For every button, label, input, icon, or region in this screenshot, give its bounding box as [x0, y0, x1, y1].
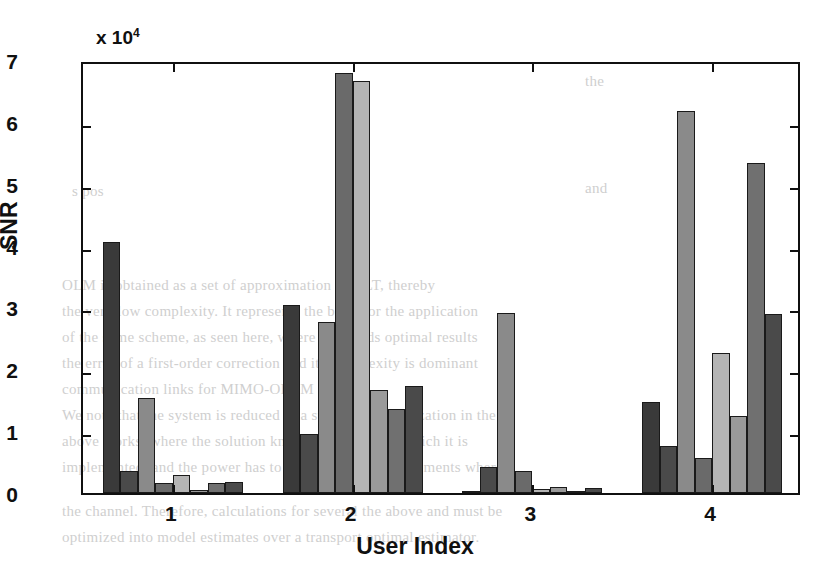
x-tick-label: 2 — [345, 502, 357, 526]
y-tick-mark — [82, 373, 91, 375]
y-tick-label: 4 — [0, 236, 18, 260]
bar — [353, 81, 371, 493]
y-tick-label: 6 — [0, 112, 18, 136]
bar — [190, 490, 208, 493]
bar — [208, 483, 226, 493]
bar — [300, 434, 318, 493]
bar — [585, 488, 603, 493]
x-axis-title: User Index — [0, 533, 830, 560]
x-tick-label: 1 — [165, 502, 177, 526]
y-tick-label: 7 — [0, 50, 18, 74]
bar — [388, 409, 406, 493]
bar — [765, 314, 783, 493]
bar — [712, 353, 730, 493]
y-axis-exponent-power: 4 — [133, 26, 140, 40]
bar — [660, 446, 678, 493]
bar — [462, 491, 480, 493]
x-tick-mark — [173, 485, 175, 494]
bar — [642, 402, 660, 493]
bar — [677, 111, 695, 493]
x-tick-label: 3 — [525, 502, 537, 526]
bar — [103, 242, 121, 493]
bar — [155, 483, 173, 493]
y-tick-mark — [790, 126, 799, 128]
x-tick-label: 4 — [704, 502, 716, 526]
bar — [120, 471, 138, 493]
bar-chart-figure: x 104 SNR User Index 01234567 1234 — [0, 0, 830, 574]
y-tick-label: 5 — [0, 174, 18, 198]
bar — [318, 322, 336, 493]
bar-series-container — [83, 64, 798, 493]
y-tick-mark — [82, 435, 91, 437]
bar — [335, 73, 353, 493]
y-tick-label: 0 — [0, 483, 18, 507]
y-tick-mark — [82, 250, 91, 252]
x-tick-mark — [712, 63, 714, 72]
y-tick-mark — [790, 188, 799, 190]
bar — [225, 482, 243, 493]
bar — [747, 163, 765, 493]
x-tick-mark — [173, 63, 175, 72]
x-tick-mark — [353, 63, 355, 72]
bar — [405, 386, 423, 493]
bar — [173, 475, 191, 493]
y-tick-mark — [790, 311, 799, 313]
bar — [695, 458, 713, 493]
bar — [550, 487, 568, 493]
bar — [532, 489, 550, 493]
bar — [138, 398, 156, 493]
y-tick-mark — [790, 435, 799, 437]
plot-area — [81, 62, 800, 495]
y-tick-label: 1 — [0, 421, 18, 445]
bar — [567, 491, 585, 493]
bar — [497, 313, 515, 493]
bar — [283, 305, 301, 493]
y-tick-mark — [82, 126, 91, 128]
y-axis-exponent-label: x 104 — [96, 26, 140, 49]
y-axis-exponent-mantissa: x 10 — [96, 27, 133, 48]
x-tick-mark — [712, 485, 714, 494]
y-tick-mark — [790, 250, 799, 252]
y-tick-mark — [790, 373, 799, 375]
y-tick-label: 2 — [0, 359, 18, 383]
y-tick-label: 3 — [0, 297, 18, 321]
bar — [515, 471, 533, 493]
bar — [370, 390, 388, 493]
bar — [730, 416, 748, 493]
x-tick-mark — [532, 485, 534, 494]
y-tick-mark — [82, 311, 91, 313]
x-tick-mark — [532, 63, 534, 72]
x-tick-mark — [353, 485, 355, 494]
bar — [480, 467, 498, 493]
y-tick-mark — [82, 188, 91, 190]
